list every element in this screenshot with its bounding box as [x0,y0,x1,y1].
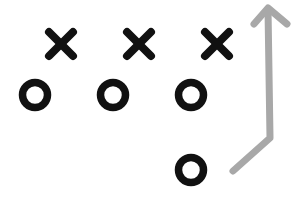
offense-o-icon [101,83,126,108]
route-line [233,9,270,171]
play-diagram [0,0,298,198]
offense-o-icon [179,83,204,108]
offense-o-icon [179,158,204,183]
defender-x-icon [205,32,229,56]
defender-x-icon [127,32,151,56]
offense-o-icon [23,83,48,108]
play-diagram-canvas [0,0,298,198]
route-arrow [233,8,287,171]
defender-x-icon [49,32,73,56]
